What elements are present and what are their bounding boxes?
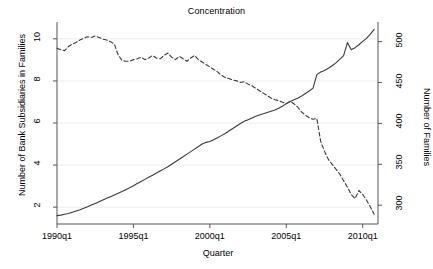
x-axis-tick-label: 2010q1 bbox=[333, 231, 393, 241]
y-axis-right-tick-label: 350 bbox=[394, 147, 404, 177]
gridlines bbox=[57, 39, 378, 207]
y-axis-right-tick-label: 300 bbox=[394, 188, 404, 218]
plot-area bbox=[0, 0, 433, 269]
y-axis-right-tick-label: 500 bbox=[394, 25, 404, 55]
y-axis-left-tick-label: 10 bbox=[32, 24, 42, 50]
tick-marks bbox=[53, 39, 382, 228]
x-axis-tick-label: 2005q1 bbox=[256, 231, 316, 241]
y-axis-left-tick-label: 8 bbox=[32, 66, 42, 92]
data-series-layer bbox=[57, 29, 374, 215]
y-axis-left-tick-label: 4 bbox=[32, 150, 42, 176]
x-axis-tick-label: 2000q1 bbox=[180, 231, 240, 241]
x-axis-tick-label: 1995q1 bbox=[103, 231, 163, 241]
y-axis-right-tick-label: 450 bbox=[394, 66, 404, 96]
series-line-1 bbox=[57, 29, 374, 215]
y-axis-left-tick-label: 6 bbox=[32, 108, 42, 134]
y-axis-left-tick-label: 2 bbox=[32, 192, 42, 218]
concentration-chart: Concentration Number of Bank Subsidiarie… bbox=[0, 0, 433, 269]
y-axis-right-tick-label: 400 bbox=[394, 106, 404, 136]
x-axis-tick-label: 1990q1 bbox=[27, 231, 87, 241]
series-line-2 bbox=[57, 36, 374, 214]
